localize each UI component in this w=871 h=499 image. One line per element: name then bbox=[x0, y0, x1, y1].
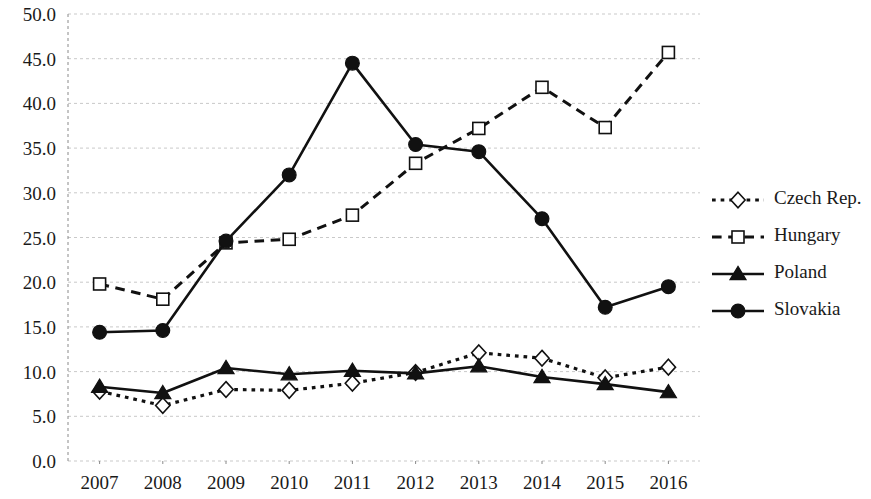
data-point-marker bbox=[410, 157, 422, 169]
x-axis-tick-label: 2016 bbox=[649, 472, 687, 493]
legend-label: Hungary bbox=[774, 224, 841, 245]
data-point-marker bbox=[218, 360, 234, 373]
y-axis-tick-label: 30.0 bbox=[23, 183, 56, 204]
data-point-marker bbox=[92, 379, 108, 392]
x-axis-tick-label: 2012 bbox=[397, 472, 435, 493]
y-axis-group: 0.05.010.015.020.025.030.035.040.045.050… bbox=[23, 4, 56, 472]
y-axis-tick-label: 45.0 bbox=[23, 49, 56, 70]
legend-marker-swatch bbox=[732, 231, 744, 243]
legend-item-czech-rep[interactable]: Czech Rep. bbox=[712, 187, 862, 208]
line-chart: 0.05.010.015.020.025.030.035.040.045.050… bbox=[0, 0, 871, 499]
x-axis-tick-label: 2011 bbox=[334, 472, 371, 493]
y-axis-tick-label: 40.0 bbox=[23, 93, 56, 114]
legend-marker-swatch bbox=[731, 192, 745, 208]
data-point-marker bbox=[346, 209, 358, 221]
data-point-marker bbox=[156, 398, 170, 414]
y-axis-tick-label: 5.0 bbox=[32, 406, 56, 427]
series-group bbox=[92, 46, 677, 413]
x-axis-group: 2007200820092010201120122013201420152016 bbox=[81, 461, 688, 493]
data-point-marker bbox=[662, 280, 676, 294]
data-point-marker bbox=[535, 212, 549, 226]
data-point-marker bbox=[93, 325, 107, 339]
legend-label: Poland bbox=[774, 261, 827, 282]
data-point-marker bbox=[599, 122, 611, 134]
series-slovakia bbox=[93, 56, 676, 339]
series-line bbox=[100, 52, 669, 299]
series-czech-rep bbox=[92, 345, 675, 413]
data-point-marker bbox=[535, 350, 549, 366]
legend-label: Slovakia bbox=[774, 298, 841, 319]
series-line bbox=[100, 353, 669, 406]
x-axis-tick-label: 2008 bbox=[144, 472, 182, 493]
data-point-marker bbox=[409, 138, 423, 152]
x-axis-tick-label: 2010 bbox=[270, 472, 308, 493]
data-point-marker bbox=[219, 234, 233, 248]
x-axis-tick-label: 2013 bbox=[460, 472, 498, 493]
series-hungary bbox=[94, 46, 675, 305]
chart-canvas: 0.05.010.015.020.025.030.035.040.045.050… bbox=[0, 0, 871, 499]
y-axis-tick-label: 50.0 bbox=[23, 4, 56, 25]
data-point-marker bbox=[94, 278, 106, 290]
x-axis-tick-label: 2014 bbox=[523, 472, 562, 493]
legend-item-poland[interactable]: Poland bbox=[712, 261, 827, 282]
data-point-marker bbox=[282, 383, 296, 399]
legend-item-slovakia[interactable]: Slovakia bbox=[712, 298, 841, 319]
data-point-marker bbox=[157, 293, 169, 305]
y-axis-tick-label: 35.0 bbox=[23, 138, 56, 159]
data-point-marker bbox=[536, 81, 548, 93]
legend-label: Czech Rep. bbox=[774, 187, 862, 208]
legend-marker-swatch bbox=[731, 304, 745, 318]
data-point-marker bbox=[282, 168, 296, 182]
y-axis-tick-label: 0.0 bbox=[32, 451, 56, 472]
chart-legend: Czech Rep.HungaryPolandSlovakia bbox=[712, 187, 862, 319]
data-point-marker bbox=[473, 122, 485, 134]
y-axis-tick-label: 25.0 bbox=[23, 228, 56, 249]
y-axis-tick-label: 15.0 bbox=[23, 317, 56, 338]
data-point-marker bbox=[345, 375, 359, 391]
x-axis-tick-label: 2015 bbox=[586, 472, 624, 493]
data-point-marker bbox=[283, 233, 295, 245]
data-point-marker bbox=[471, 359, 487, 372]
data-point-marker bbox=[472, 145, 486, 159]
x-axis-tick-label: 2007 bbox=[81, 472, 119, 493]
data-point-marker bbox=[219, 382, 233, 398]
data-point-marker bbox=[346, 56, 360, 70]
data-point-marker bbox=[661, 359, 675, 375]
y-axis-tick-label: 20.0 bbox=[23, 272, 56, 293]
legend-item-hungary[interactable]: Hungary bbox=[712, 224, 841, 245]
x-axis-tick-label: 2009 bbox=[207, 472, 245, 493]
data-point-marker bbox=[662, 46, 674, 58]
data-point-marker bbox=[598, 300, 612, 314]
data-point-marker bbox=[156, 324, 170, 338]
y-axis-tick-label: 10.0 bbox=[23, 362, 56, 383]
